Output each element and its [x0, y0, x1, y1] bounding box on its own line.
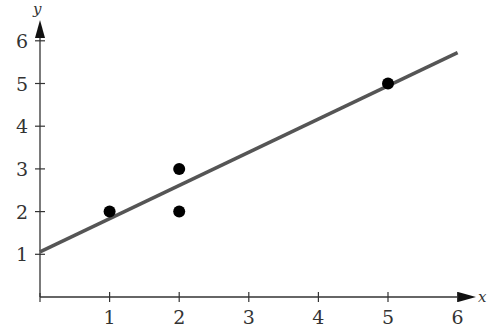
x-axis-arrow-icon	[458, 292, 476, 302]
y-tick-label: 1	[16, 243, 28, 265]
y-tick-label: 6	[16, 30, 28, 52]
y-tick-label: 2	[16, 201, 28, 223]
y-tick-label: 5	[16, 73, 28, 95]
data-point	[104, 206, 116, 218]
data-point	[173, 206, 185, 218]
x-axis-label: x	[478, 288, 487, 306]
axes	[35, 20, 476, 302]
y-tick-label: 4	[16, 115, 28, 137]
x-tick-label: 4	[312, 306, 324, 328]
regression-line-path	[40, 53, 458, 252]
data-points	[104, 78, 394, 218]
x-tick-label: 1	[104, 306, 116, 328]
x-tick-label: 6	[452, 306, 464, 328]
x-tick-label: 5	[382, 306, 394, 328]
x-tick-label: 3	[243, 306, 255, 328]
y-axis-label: y	[32, 0, 42, 18]
x-tick-label: 2	[173, 306, 185, 328]
regression-line	[40, 53, 458, 252]
data-point	[173, 163, 185, 175]
y-tick-label: 3	[16, 158, 28, 180]
scatter-plot-with-regression-line: 123456123456 x y	[0, 0, 493, 333]
data-point	[382, 78, 394, 90]
ticks: 123456123456	[16, 30, 464, 328]
y-axis-arrow-icon	[35, 20, 45, 38]
